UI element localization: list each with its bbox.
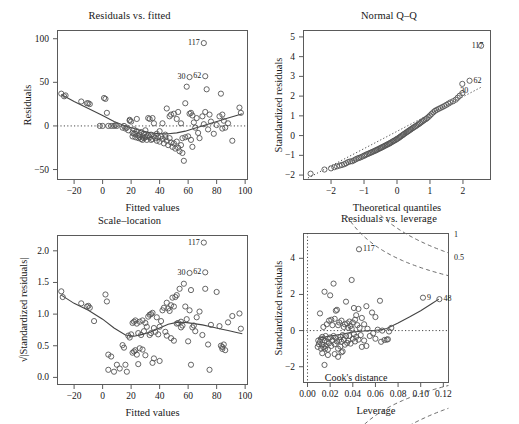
point-label: 117 — [472, 41, 484, 50]
x-tick-label: 100 — [238, 391, 252, 401]
x-tick-label: 0.06 — [367, 389, 384, 399]
y-tick-label: −1 — [285, 150, 295, 160]
y-axis-label: Standardized residuals — [273, 58, 284, 153]
diagnostic-plot-figure: Residuals vs. fitted−20020406080100−5005… — [0, 0, 519, 424]
y-tick-label: −2 — [285, 362, 295, 372]
panel-residuals-vs-leverage: Residuals vs. leverage0.000.020.040.060.… — [259, 211, 519, 424]
y-tick-label: 0 — [290, 131, 295, 141]
plot-canvas — [0, 0, 259, 212]
x-tick-label: 0 — [100, 391, 105, 401]
x-tick-label: −20 — [67, 391, 82, 401]
point-label: 117 — [188, 238, 200, 247]
panel-scale-location: Scale–location−200204060801000.00.51.01.… — [0, 211, 259, 424]
x-tick-label: 60 — [183, 391, 193, 401]
point-label: 30 — [460, 86, 468, 95]
y-tick-label: 3 — [290, 71, 295, 81]
x-tick-label: 0.10 — [412, 389, 429, 399]
x-tick-label: 0.00 — [299, 389, 316, 399]
x-tick-label: 0.04 — [344, 389, 361, 399]
y-axis-label: Residuals — [22, 85, 33, 126]
x-tick-label: 40 — [155, 391, 165, 401]
y-axis-label: √|Standardized residuals| — [18, 258, 29, 363]
plot-canvas — [259, 0, 519, 212]
cooks-contour-label: 1 — [454, 230, 458, 239]
x-axis-label: Leverage — [356, 405, 395, 416]
y-tick-label: 100 — [35, 34, 49, 44]
x-tick-label: −20 — [67, 186, 82, 196]
x-tick-label: 80 — [212, 186, 222, 196]
point-label: 62 — [193, 267, 201, 276]
cooks-distance-annotation: Cook's distance — [325, 372, 388, 383]
y-tick-label: 1.5 — [37, 277, 49, 287]
y-tick-label: 4 — [290, 52, 295, 62]
x-tick-label: 0.12 — [435, 389, 452, 399]
x-tick-label: 100 — [238, 186, 252, 196]
x-tick-label: 80 — [212, 391, 222, 401]
y-tick-label: 2.0 — [37, 246, 49, 256]
x-tick-label: 0.08 — [390, 389, 407, 399]
y-tick-label: 2 — [290, 289, 295, 299]
y-tick-label: −50 — [34, 165, 49, 175]
x-tick-label: 2 — [461, 186, 466, 196]
x-tick-label: 0.02 — [322, 389, 339, 399]
x-tick-label: 1 — [428, 186, 433, 196]
x-tick-label: 60 — [183, 186, 193, 196]
point-label: 117 — [188, 38, 200, 47]
x-tick-label: 40 — [155, 186, 165, 196]
point-label: 48 — [443, 294, 451, 303]
point-label: 9 — [427, 293, 431, 302]
x-tick-label: 0 — [100, 186, 105, 196]
y-tick-label: 2 — [290, 91, 295, 101]
point-label: 30 — [178, 72, 186, 81]
y-tick-label: 0.0 — [37, 372, 49, 382]
point-label: 117 — [363, 244, 375, 253]
x-tick-label: 0 — [395, 186, 400, 196]
y-tick-label: 50 — [40, 77, 50, 87]
y-tick-label: 5 — [290, 32, 295, 42]
cooks-contour-label: 0.5 — [454, 253, 464, 262]
y-tick-label: 0 — [290, 326, 295, 336]
y-tick-label: 1 — [290, 111, 295, 121]
y-axis-label: Standardized residuals — [273, 261, 284, 356]
y-tick-label: −2 — [285, 170, 295, 180]
x-tick-label: −1 — [359, 186, 369, 196]
y-tick-label: 1.0 — [37, 309, 49, 319]
y-tick-label: 4 — [290, 253, 295, 263]
y-tick-label: 0.5 — [37, 341, 49, 351]
panel-residuals-vs-fitted: Residuals vs. fitted−20020406080100−5005… — [0, 0, 259, 212]
y-tick-label: 0 — [44, 121, 49, 131]
point-label: 62 — [474, 76, 482, 85]
x-tick-label: −2 — [326, 186, 336, 196]
point-label: 30 — [178, 268, 186, 277]
x-axis-label: Fitted values — [126, 407, 180, 418]
panel-normal-qq: Normal Q–Q−2−1012−2−1012345Theoretical q… — [259, 0, 519, 212]
x-tick-label: 20 — [126, 391, 136, 401]
point-label: 62 — [193, 71, 201, 80]
x-tick-label: 20 — [126, 186, 136, 196]
